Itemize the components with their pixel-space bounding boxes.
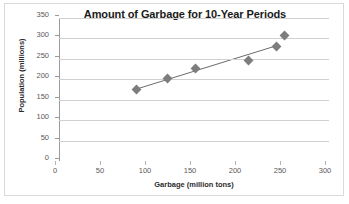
trendline [59,18,329,161]
x-tick-mark [55,161,56,165]
chart-frame: Amount of Garbage for 10-Year Periods Po… [4,3,344,196]
gridline-y [59,79,329,80]
x-tick-mark [235,161,236,165]
x-tick-mark [145,161,146,165]
y-axis-tick-label: 0 [21,154,49,162]
plot-area [59,18,329,161]
y-axis-tick-label: 150 [21,93,49,101]
x-tick-mark [190,161,191,165]
x-axis-tick-label: 150 [175,167,205,175]
y-axis-tick-label: 250 [21,52,49,60]
y-tick-mark [55,97,59,98]
x-axis-tick-label: 250 [265,167,295,175]
x-axis-tick-label: 100 [130,167,160,175]
y-axis-tick-label: 300 [21,31,49,39]
gridline-y [59,141,329,142]
x-axis-tick-label: 50 [85,167,115,175]
gridline-y [59,59,329,60]
x-tick-mark [280,161,281,165]
y-tick-mark [55,15,59,16]
y-axis-tick-label: 200 [21,72,49,80]
y-tick-mark [55,138,59,139]
y-tick-mark [55,56,59,57]
y-axis-tick-label: 50 [21,134,49,142]
gridline-y [59,38,329,39]
y-tick-mark [55,35,59,36]
gridline-y [59,100,329,101]
y-tick-mark [55,158,59,159]
gridline-y [59,18,329,19]
y-tick-mark [55,76,59,77]
gridline-y [59,120,329,121]
y-axis-tick-label: 100 [21,113,49,121]
x-axis-tick-label: 300 [310,167,340,175]
x-axis-tick-label: 0 [40,167,70,175]
x-axis-tick-label: 200 [220,167,250,175]
x-tick-mark [325,161,326,165]
x-axis-title: Garbage (million tons) [59,180,329,189]
y-tick-mark [55,117,59,118]
x-tick-mark [100,161,101,165]
y-axis-tick-label: 350 [21,11,49,19]
